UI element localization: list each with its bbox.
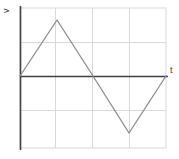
plot-canvas xyxy=(0,0,179,159)
x-axis-label: t xyxy=(170,66,173,75)
y-axis-label: v xyxy=(2,9,11,14)
waveform-figure: v t xyxy=(0,0,179,159)
